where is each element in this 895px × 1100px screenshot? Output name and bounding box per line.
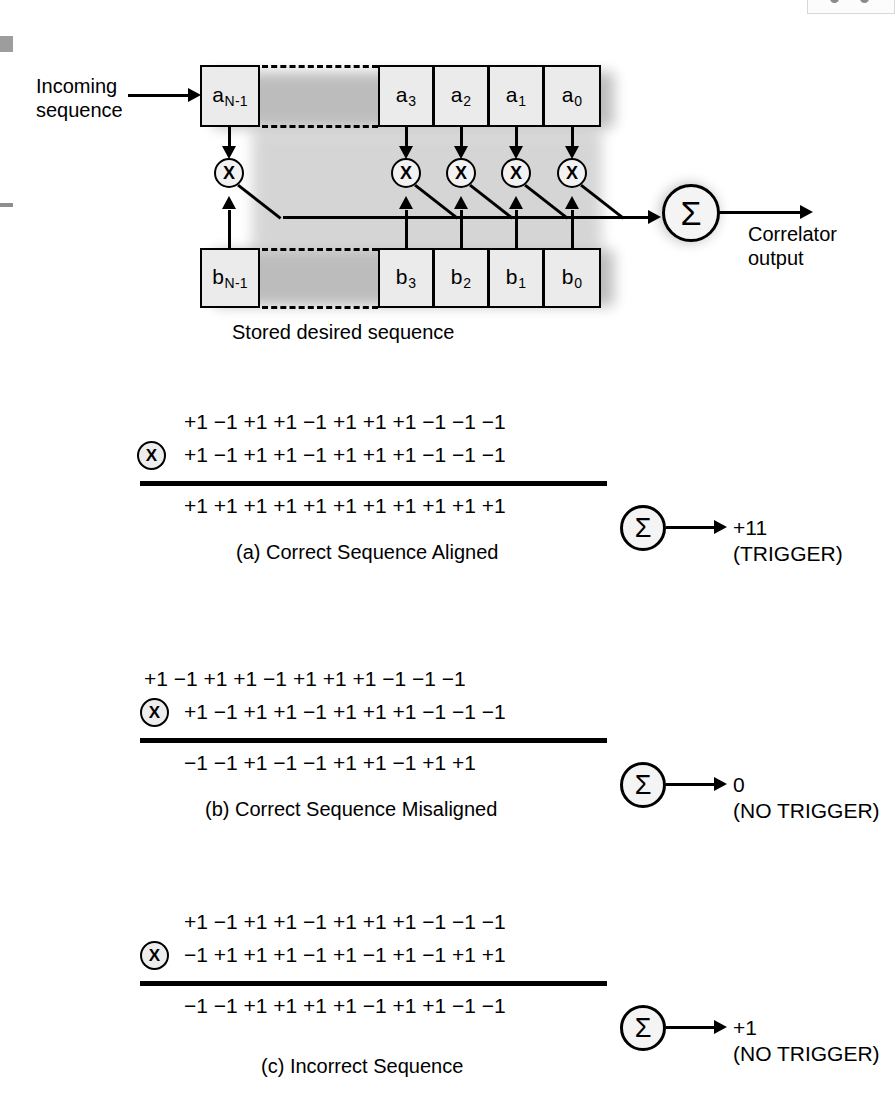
multiplier-symbol: X <box>400 164 412 182</box>
multiply-operator-symbol: X <box>149 704 160 721</box>
case-c-result-state: (NO TRIGGER) <box>733 1042 880 1065</box>
multiplier-symbol: X <box>223 164 235 182</box>
case-a-rule <box>140 481 607 486</box>
case-c-row-incoming: +1 −1 +1 +1 −1 +1 +1 +1 −1 −1 −1 <box>184 910 506 934</box>
case-c-caption: (c) Incorrect Sequence <box>261 1055 463 1078</box>
case-b-result-arrow <box>714 777 727 791</box>
sigma-symbol: Σ <box>680 196 701 230</box>
case-a-result-line <box>666 526 718 529</box>
register-cell-a-n-1: aN-1 <box>200 65 260 127</box>
case-b-result-line <box>666 783 718 786</box>
case-a-result: +11 (TRIGGER) <box>733 515 843 568</box>
cell-label-b-n-1: bN-1 <box>212 265 248 291</box>
case-b-result-state: (NO TRIGGER) <box>733 799 880 822</box>
case-c-row-product: −1 −1 +1 +1 +1 +1 −1 +1 +1 −1 −1 <box>184 994 506 1018</box>
top-register-dash-lower <box>262 125 378 128</box>
rise-arrow-b-n-1 <box>222 196 236 209</box>
register-cell-b-0: b0 <box>543 248 601 308</box>
incoming-label-line1: Incoming <box>36 75 117 97</box>
case-c-rule <box>140 981 607 986</box>
correlator-output-arrow <box>800 205 813 219</box>
case-a-multiply-operator: X <box>137 441 166 470</box>
case-b-result: 0 (NO TRIGGER) <box>733 772 880 825</box>
register-cell-b-1: b1 <box>488 248 544 308</box>
shadow-mid <box>252 130 602 250</box>
summation-node: Σ <box>662 184 720 242</box>
register-cell-a-1: a1 <box>488 65 544 127</box>
cell-label-a-2: a2 <box>451 83 471 109</box>
summing-bus-line <box>283 216 653 219</box>
case-c-result: +1 (NO TRIGGER) <box>733 1015 880 1068</box>
multiplier-symbol: X <box>455 164 467 182</box>
register-cell-b-n-1: bN-1 <box>200 248 260 308</box>
case-c-sum-node: Σ <box>620 1005 666 1051</box>
correlator-output-line <box>718 211 804 214</box>
multiplier-symbol: X <box>510 164 522 182</box>
case-b-result-value: 0 <box>733 773 745 796</box>
case-b-row-stored: +1 −1 +1 +1 −1 +1 +1 +1 −1 −1 −1 <box>184 700 506 724</box>
cell-label-b-0: b0 <box>562 265 582 291</box>
incoming-sequence-label: Incoming sequence <box>36 74 186 123</box>
rise-arrow-b-3 <box>399 196 413 209</box>
case-a-row-stored: +1 −1 +1 +1 −1 +1 +1 +1 −1 −1 −1 <box>184 443 506 467</box>
cell-label-a-n-1: aN-1 <box>212 83 248 109</box>
rise-arrow-b-1 <box>509 196 523 209</box>
cell-label-b-2: b2 <box>451 265 471 291</box>
bottom-register-dash-upper <box>262 248 378 251</box>
summing-bus-arrow <box>648 210 661 224</box>
sigma-symbol: Σ <box>635 772 652 799</box>
register-cell-b-2: b2 <box>433 248 489 308</box>
register-cell-a-3: a3 <box>378 65 434 127</box>
rise-arrow-b-2 <box>454 196 468 209</box>
case-c-multiply-operator: X <box>140 941 169 970</box>
case-a-result-state: (TRIGGER) <box>733 542 843 565</box>
case-b-row-product: −1 −1 +1 −1 −1 +1 +1 −1 +1 +1 <box>184 751 476 775</box>
case-b-multiply-operator: X <box>140 698 169 727</box>
rise-line-b-1 <box>515 210 518 250</box>
rise-line-b-3 <box>405 210 408 250</box>
sigma-symbol: Σ <box>635 1015 652 1042</box>
cell-label-b-3: b3 <box>396 265 416 291</box>
multiply-operator-symbol: X <box>149 947 160 964</box>
case-b-row-incoming: +1 −1 +1 +1 −1 +1 +1 +1 −1 −1 −1 <box>144 667 466 691</box>
rise-line-b-n-1 <box>228 210 231 250</box>
correlator-block-diagram: Incoming sequence aN-1 a3 a2 a1 a0 <box>0 0 895 390</box>
case-a-row-product: +1 +1 +1 +1 +1 +1 +1 +1 +1 +1 +1 <box>184 494 506 518</box>
case-a-caption: (a) Correct Sequence Aligned <box>236 541 498 564</box>
stored-sequence-label: Stored desired sequence <box>232 320 454 344</box>
case-b-caption: (b) Correct Sequence Misaligned <box>205 798 497 821</box>
sigma-symbol: Σ <box>635 515 652 542</box>
case-a-row-incoming: +1 −1 +1 +1 −1 +1 +1 +1 −1 −1 −1 <box>184 410 506 434</box>
register-cell-a-2: a2 <box>433 65 489 127</box>
incoming-arrow-line <box>128 94 190 97</box>
case-a-sum-node: Σ <box>620 505 666 551</box>
multiply-operator-symbol: X <box>146 447 157 464</box>
figure-page: Incoming sequence aN-1 a3 a2 a1 a0 <box>0 0 895 1100</box>
rise-line-b-2 <box>460 210 463 250</box>
cell-label-b-1: b1 <box>506 265 526 291</box>
incoming-label-line2: sequence <box>36 99 123 121</box>
register-cell-b-3: b3 <box>378 248 434 308</box>
register-cell-a-0: a0 <box>543 65 601 127</box>
rise-arrow-b-0 <box>565 196 579 209</box>
case-c-result-arrow <box>714 1020 727 1034</box>
bottom-register-dash-lower <box>262 306 378 309</box>
cell-label-a-3: a3 <box>396 83 416 109</box>
case-c-result-value: +1 <box>733 1016 757 1039</box>
top-register-dash-upper <box>262 65 378 68</box>
case-a-result-value: +11 <box>733 516 767 539</box>
case-b-rule <box>140 738 607 743</box>
case-c-row-stored: −1 +1 +1 +1 −1 +1 −1 +1 −1 +1 +1 <box>184 943 506 967</box>
case-b-sum-node: Σ <box>620 762 666 808</box>
case-a-result-arrow <box>714 520 727 534</box>
cell-label-a-0: a0 <box>562 83 582 109</box>
correlator-output-label: Correlator output <box>748 222 895 271</box>
output-label-line2: output <box>748 247 804 269</box>
multiplier-symbol: X <box>566 164 578 182</box>
output-label-line1: Correlator <box>748 223 837 245</box>
case-c-result-line <box>666 1026 718 1029</box>
cell-label-a-1: a1 <box>506 83 526 109</box>
rise-line-b-0 <box>571 210 574 250</box>
